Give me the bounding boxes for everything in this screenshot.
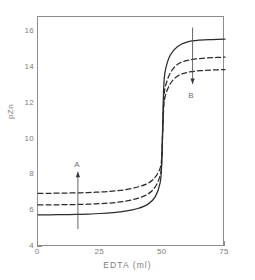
x-axis-tick-label: 75 — [210, 248, 238, 256]
annotation-arrow-head — [190, 78, 194, 83]
y-axis-tick-label: 14 — [25, 63, 35, 71]
titration-chart-figure: pZn EDTA (ml) 468101214160255075 A B — [0, 0, 255, 280]
x-axis-tick-label: 0 — [23, 248, 51, 256]
curve-group — [38, 39, 225, 215]
annotation-label-b: B — [185, 92, 197, 100]
x-axis-title: EDTA (ml) — [0, 261, 255, 270]
y-axis-tick-label: 12 — [25, 99, 35, 107]
y-axis-tick-label: 10 — [25, 135, 35, 143]
x-axis-tick-label: 25 — [85, 248, 113, 256]
annotation-arrow-head — [76, 172, 80, 178]
y-axis-tick-label: 8 — [29, 170, 34, 178]
y-axis-tick-label: 16 — [25, 27, 35, 35]
y-axis-title: pZn — [7, 104, 15, 119]
plot-area — [37, 16, 224, 246]
data-curve — [38, 70, 225, 194]
curves-svg — [38, 17, 225, 247]
data-curve — [38, 39, 225, 215]
y-axis-tick-label: 6 — [29, 206, 34, 214]
data-curve — [38, 57, 225, 205]
x-axis-tick-label: 50 — [148, 248, 176, 256]
annotation-label-a: A — [71, 161, 83, 169]
